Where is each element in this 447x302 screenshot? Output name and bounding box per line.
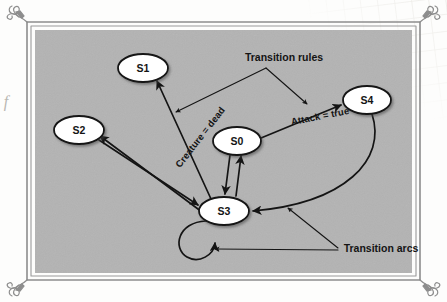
creature-dead-label: Creature = dead (173, 105, 227, 170)
state-label-s4: S4 (361, 94, 374, 106)
state-label-s0: S0 (231, 135, 244, 147)
attack-true-label: Attack = true (290, 105, 350, 127)
margin-glyph: f (4, 93, 8, 111)
state-label-s3: S3 (218, 205, 231, 217)
figure-root: S1 S2 S0 S3 S4 Creature = dead Attack = … (0, 0, 447, 302)
transition-arcs-annotation: Transition arcs (344, 242, 419, 254)
labels-layer: S1 S2 S0 S3 S4 Creature = dead Attack = … (0, 0, 447, 302)
state-label-s1: S1 (137, 62, 150, 74)
transition-rules-annotation: Transition rules (245, 51, 323, 63)
state-label-s2: S2 (73, 124, 86, 136)
